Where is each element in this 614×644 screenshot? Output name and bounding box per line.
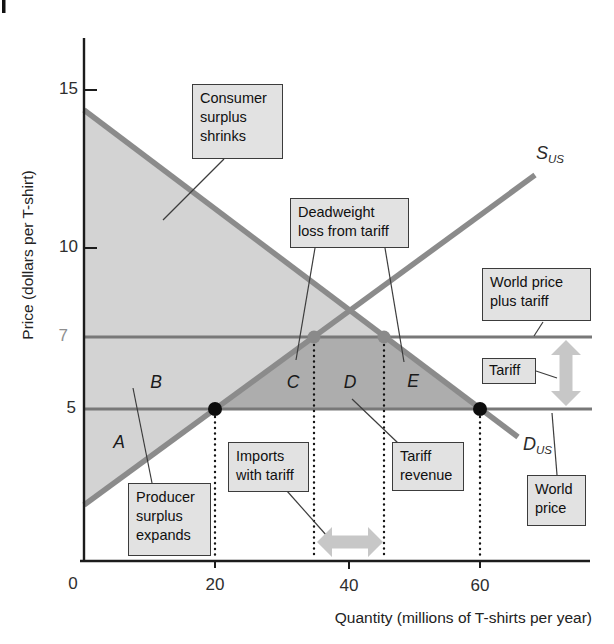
region-letter-e: E	[398, 371, 428, 392]
y-tick-label-7: 7	[28, 326, 68, 346]
callout-world-price: World price	[527, 475, 586, 526]
y-tick-label-10: 10	[38, 237, 78, 257]
callout-consumer-surplus: Consumer surplus shrinks	[192, 84, 283, 159]
y-tick-label-5: 5	[36, 398, 76, 418]
region-letter-c: C	[278, 372, 308, 393]
demand-subscript: US	[536, 444, 552, 456]
corner-crop-mark	[2, 0, 6, 13]
supply-curve-label: SUS	[536, 143, 564, 165]
plot-canvas	[0, 0, 614, 644]
region-letter-b: B	[141, 372, 171, 393]
demand-curve-label: DUS	[523, 434, 552, 456]
y-tick-label-15: 15	[38, 79, 78, 99]
x-tick-label-60: 60	[458, 576, 502, 596]
callout-tariff: Tariff	[482, 358, 536, 384]
marker-demand-at-world-price	[473, 402, 487, 416]
connector-world-price	[552, 413, 557, 475]
connector-tariff	[536, 371, 557, 378]
supply-letter: S	[536, 143, 548, 163]
callout-tariff-revenue: Tariff revenue	[392, 442, 464, 491]
x-tick-label-40: 40	[327, 576, 371, 596]
marker-supply-at-world-price	[208, 402, 222, 416]
marker-demand-at-tariff-price	[378, 331, 391, 344]
callout-deadweight-loss: Deadweight loss from tariff	[290, 198, 409, 248]
connector-world-price-plus-tariff	[534, 322, 543, 336]
tariff-double-arrow-icon	[551, 340, 581, 406]
x-tick-label-0: 0	[51, 574, 95, 594]
callout-imports-with-tariff: Imports with tariff	[228, 442, 309, 492]
supply-subscript: US	[548, 153, 564, 165]
imports-double-arrow-icon	[317, 527, 383, 557]
demand-letter: D	[523, 434, 536, 454]
tariff-figure: Price (dollars per T-shirt) Quantity (mi…	[0, 0, 614, 644]
region-letter-a: A	[104, 432, 134, 453]
x-axis-title: Quantity (millions of T-shirts per year)	[290, 609, 592, 627]
marker-supply-at-tariff-price	[308, 331, 321, 344]
callout-producer-surplus: Producer surplus expands	[128, 483, 211, 556]
region-letter-d: D	[335, 372, 365, 393]
callout-world-price-plus-tariff: World price plus tariff	[482, 268, 591, 321]
connector-imports	[287, 491, 327, 536]
x-tick-label-20: 20	[193, 575, 237, 595]
